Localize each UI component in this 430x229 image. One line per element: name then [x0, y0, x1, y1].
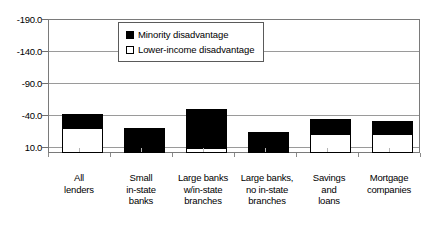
x-category-label-savings-and-loans: Savings and loans — [300, 172, 358, 207]
filled-square-icon — [126, 31, 134, 39]
legend-label: Lower-income disadvantage — [138, 44, 254, 55]
label-line: in-state — [110, 184, 172, 196]
cropped-title-strip — [0, 0, 430, 4]
x-tick-mark — [48, 153, 49, 157]
bar-segment-lower-income[interactable] — [372, 134, 413, 153]
label-line: branches — [234, 195, 300, 207]
label-line: branches — [171, 195, 235, 207]
y-axis: -190.0 -140.0 -90.0 -40.0 10.0 — [0, 0, 45, 229]
x-tick-mark — [172, 153, 173, 157]
x-minor-tick — [79, 148, 80, 152]
label-line: Large banks, — [234, 172, 300, 184]
x-tick-mark — [420, 153, 421, 157]
label-line: lenders — [48, 184, 110, 196]
x-category-label-all-lenders: All lenders — [48, 172, 110, 195]
bar-segment-lower-income[interactable] — [186, 148, 227, 153]
y-tick-label: 10.0 — [25, 142, 42, 153]
legend-item-minority: Minority disadvantage — [126, 27, 254, 42]
x-minor-tick — [265, 148, 266, 152]
y-tick-label: -140.0 — [17, 46, 42, 57]
label-line: Savings — [300, 172, 358, 184]
label-line: and — [300, 184, 358, 196]
x-minor-tick — [203, 148, 204, 152]
x-minor-tick — [389, 148, 390, 152]
bar-segment-lower-income[interactable] — [310, 134, 351, 153]
bar-group-savings-and-loans[interactable] — [310, 25, 351, 153]
label-line: no in-state — [234, 184, 300, 196]
y-tick-label: -40.0 — [22, 110, 42, 121]
x-tick-mark — [234, 153, 235, 157]
x-minor-tick — [327, 148, 328, 152]
open-square-icon — [126, 46, 134, 54]
bar-segment-minority[interactable] — [62, 114, 103, 128]
label-line: Large banks — [171, 172, 235, 184]
x-category-label-large-banks-no-in-state-branches: Large banks, no in-state branches — [234, 172, 300, 207]
label-line: All — [48, 172, 110, 184]
x-category-label-large-banks-with-in-state-branches: Large banks w/in-state branches — [171, 172, 235, 207]
bar-group-mortgage-companies[interactable] — [372, 25, 413, 153]
label-line: loans — [300, 195, 358, 207]
x-minor-tick — [141, 148, 142, 152]
x-tick-mark — [110, 153, 111, 157]
x-tick-mark — [358, 153, 359, 157]
bar-segment-minority[interactable] — [248, 132, 289, 153]
bar-chart: -190.0 -140.0 -90.0 -40.0 10.0 — [0, 0, 430, 229]
bar-segment-minority[interactable] — [310, 119, 351, 134]
label-line: w/in-state — [171, 184, 235, 196]
label-line: banks — [110, 195, 172, 207]
x-category-label-small-in-state-banks: Small in-state banks — [110, 172, 172, 207]
bar-segment-lower-income[interactable] — [62, 128, 103, 153]
y-tick-label: -190.0 — [17, 14, 42, 25]
label-line: Small — [110, 172, 172, 184]
legend-label: Minority disadvantage — [138, 29, 228, 40]
bar-segment-minority[interactable] — [372, 121, 413, 134]
x-tick-mark — [296, 153, 297, 157]
label-line: companies — [358, 184, 420, 196]
bar-segment-minority[interactable] — [124, 128, 165, 153]
bar-segment-minority[interactable] — [186, 109, 227, 148]
x-category-label-mortgage-companies: Mortgage companies — [358, 172, 420, 195]
legend-item-lower-income: Lower-income disadvantage — [126, 42, 254, 57]
bar-group-all-lenders[interactable] — [62, 25, 103, 153]
x-axis-labels: All lenders Small in-state banks Large b… — [48, 172, 420, 227]
y-tick-label: -90.0 — [22, 78, 42, 89]
chart-legend: Minority disadvantage Lower-income disad… — [118, 22, 264, 62]
label-line: Mortgage — [358, 172, 420, 184]
